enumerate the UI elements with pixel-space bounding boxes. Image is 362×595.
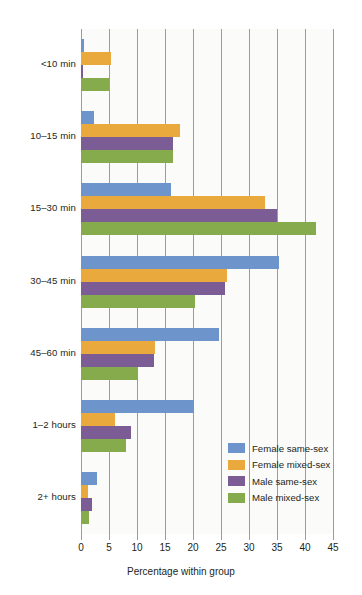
x-axis-tick: [249, 534, 250, 540]
bar: [81, 269, 227, 282]
bar: [81, 354, 154, 367]
bar-group: [81, 39, 333, 91]
x-axis-tick: [193, 534, 194, 540]
bar: [81, 367, 138, 380]
x-axis-tick: [277, 534, 278, 540]
y-axis-label: 45–60 min: [0, 347, 76, 358]
bar: [81, 137, 173, 150]
x-axis-tick-label: 20: [187, 542, 198, 553]
bar: [81, 282, 225, 295]
chart-legend: Female same-sexFemale mixed-sexMale same…: [228, 440, 358, 506]
x-axis-tick: [305, 534, 306, 540]
bar: [81, 485, 88, 498]
y-axis-label: 1–2 hours: [0, 419, 76, 430]
x-axis-tick-label: 0: [78, 542, 84, 553]
bar: [81, 426, 131, 439]
bar: [81, 498, 92, 511]
bar-chart: <10 min10–15 min15–30 min30–45 min45–60 …: [0, 0, 362, 595]
bar: [81, 328, 219, 341]
x-axis-tick-label: 25: [215, 542, 226, 553]
x-axis-tick-label: 5: [106, 542, 112, 553]
bar: [81, 511, 89, 524]
legend-swatch-icon: [228, 476, 245, 486]
x-axis-tick-label: 30: [243, 542, 254, 553]
x-axis-tick-label: 45: [327, 542, 338, 553]
legend-label: Female same-sex: [252, 443, 328, 454]
bar: [81, 124, 180, 137]
legend-swatch-icon: [228, 460, 245, 470]
legend-label: Male same-sex: [252, 476, 317, 487]
legend-item: Female same-sex: [228, 440, 358, 457]
legend-swatch-icon: [228, 493, 245, 503]
bar: [81, 65, 83, 78]
bar: [81, 400, 194, 413]
y-axis-category-labels: <10 min10–15 min15–30 min30–45 min45–60 …: [0, 29, 76, 534]
bar: [81, 196, 265, 209]
x-axis-tick: [137, 534, 138, 540]
x-axis-tick: [221, 534, 222, 540]
legend-item: Male mixed-sex: [228, 490, 358, 507]
bar: [81, 78, 109, 91]
y-axis-label: 2+ hours: [0, 491, 76, 502]
bar: [81, 472, 97, 485]
legend-label: Male mixed-sex: [252, 492, 319, 503]
bar: [81, 150, 173, 163]
bar: [81, 209, 277, 222]
y-axis-label: <10 min: [0, 58, 76, 69]
bar: [81, 52, 111, 65]
legend-item: Male same-sex: [228, 473, 358, 490]
x-axis-tick: [333, 534, 334, 540]
bar: [81, 183, 171, 196]
legend-label: Female mixed-sex: [252, 459, 330, 470]
y-axis-label: 10–15 min: [0, 130, 76, 141]
x-axis-tick: [109, 534, 110, 540]
bar: [81, 341, 155, 354]
bar-group: [81, 256, 333, 308]
bar: [81, 222, 316, 235]
x-axis-tick-label: 40: [299, 542, 310, 553]
y-axis-label: 15–30 min: [0, 202, 76, 213]
x-axis-tick-label: 15: [159, 542, 170, 553]
bar-group: [81, 183, 333, 235]
bar: [81, 295, 195, 308]
legend-item: Female mixed-sex: [228, 457, 358, 474]
x-axis-tick-label: 35: [271, 542, 282, 553]
bar: [81, 39, 84, 52]
bar: [81, 439, 126, 452]
x-axis: 051015202530354045: [81, 534, 333, 560]
bar-group: [81, 328, 333, 380]
bar-group: [81, 111, 333, 163]
x-axis-tick-label: 10: [131, 542, 142, 553]
x-axis-tick: [165, 534, 166, 540]
x-axis-tick: [81, 534, 82, 540]
bar: [81, 256, 279, 269]
bar: [81, 413, 115, 426]
x-axis-title: Percentage within group: [0, 566, 362, 577]
bar: [81, 111, 94, 124]
y-axis-label: 30–45 min: [0, 275, 76, 286]
legend-swatch-icon: [228, 443, 245, 453]
